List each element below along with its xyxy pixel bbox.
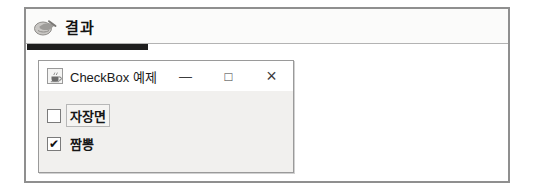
result-panel-title: 결과 [65,16,95,37]
checkbox-label-jajangmyeon[interactable]: 자장면 [66,104,110,127]
header-accent-bar [27,44,148,50]
checkbox-example-window: CheckBox 예제 — □ × 자장면 ✔ 짬뽕 [38,60,294,173]
checkbox-row-jjamppong: ✔ 짬뽕 [47,132,98,155]
checkbox-row-jajangmyeon: 자장면 [47,104,110,127]
checkbox-jjamppong[interactable]: ✔ [47,137,61,151]
window-content: 자장면 ✔ 짬뽕 [39,91,293,172]
checkbox-label-jjamppong[interactable]: 짬뽕 [66,132,98,155]
checkbox-jajangmyeon[interactable] [47,109,61,123]
window-controls: — □ × [164,61,293,91]
java-coffee-cup-icon [47,68,63,84]
minimize-button[interactable]: — [164,61,207,91]
writing-hand-icon [33,17,58,36]
checkmark-icon: ✔ [49,138,59,150]
close-button[interactable]: × [250,61,293,91]
maximize-button[interactable]: □ [207,61,250,91]
window-titlebar[interactable]: CheckBox 예제 — □ × [39,61,293,91]
result-panel: 결과 CheckBox 예제 — □ × [24,7,510,183]
result-panel-header: 결과 [26,9,508,43]
window-title: CheckBox 예제 [70,67,157,86]
